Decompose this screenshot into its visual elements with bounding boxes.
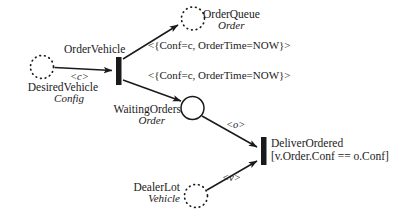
place-type-order-queue: Order [218, 20, 244, 32]
place-waiting-orders[interactable] [181, 97, 204, 120]
transition-guard-deliver-ordered: [v.Order.Conf == o.Conf] [271, 150, 389, 162]
arc-label-waiting-to-deliver: <o> [226, 119, 245, 130]
place-type-dealer-lot: Vehicle [95, 193, 180, 205]
place-dealer-lot[interactable] [185, 185, 208, 208]
arc-order-to-waiting [123, 80, 181, 101]
transition-deliver-ordered[interactable] [261, 137, 267, 165]
place-type-desired-vehicle: Config [0, 93, 84, 105]
petri-net-canvas [0, 0, 403, 218]
arc-label-desired-to-order: <c> [70, 71, 89, 82]
arc-label-dealer-to-deliver: <v> [222, 172, 241, 183]
place-type-waiting-orders: Order [82, 115, 165, 127]
transition-order-vehicle[interactable] [116, 57, 122, 85]
arc-label-order-to-waiting: <{Conf=c, OrderTime=NOW}> [148, 70, 291, 82]
place-order-queue[interactable] [182, 7, 205, 30]
place-desired-vehicle[interactable] [31, 56, 54, 79]
arc-label-order-to-queue: <{Conf=c, OrderTime=NOW}> [148, 40, 291, 52]
place-label-waiting-orders: WaitingOrders [82, 103, 181, 115]
transition-label-order-vehicle: OrderVehicle [64, 43, 125, 55]
petri-net-diagram: DesiredVehicle Config OrderQueue Order W… [0, 0, 403, 218]
transition-label-deliver-ordered: DeliverOrdered [271, 137, 343, 149]
